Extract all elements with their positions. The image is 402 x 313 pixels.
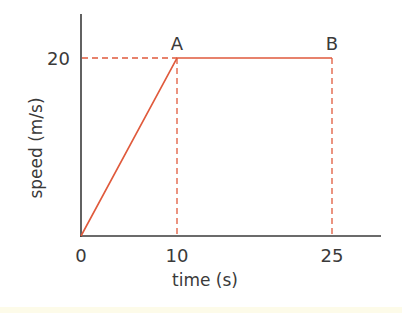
x-axis-label: time (s)	[172, 270, 238, 290]
x-tick-0: 0	[75, 245, 86, 266]
x-tick-10: 10	[166, 245, 189, 266]
speed-line	[81, 58, 332, 236]
bottom-strip	[0, 307, 402, 313]
y-tick-20: 20	[47, 48, 70, 69]
speed-time-chart: 20 0 10 25 A B time (s) speed (m/s)	[0, 0, 402, 313]
y-axis-label: speed (m/s)	[26, 97, 46, 198]
x-tick-25: 25	[321, 245, 344, 266]
point-a-label: A	[171, 33, 184, 54]
point-b-label: B	[326, 33, 338, 54]
